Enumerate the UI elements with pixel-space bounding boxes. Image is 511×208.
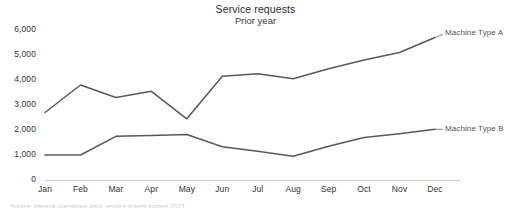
- series-label-machine-type-a: Machine Type A: [445, 28, 503, 38]
- chart-container: Service requests Prior year 6,0005,0004,…: [0, 0, 511, 208]
- x-tick-label-apr: Apr: [131, 184, 171, 194]
- series-a-leader-line: [435, 35, 443, 38]
- y-tick-label: 1,000: [2, 150, 36, 159]
- plot-area: [0, 0, 511, 208]
- y-tick-label: 6,000: [2, 25, 36, 34]
- x-tick-label-aug: Aug: [273, 184, 313, 194]
- x-tick-label-feb: Feb: [60, 184, 100, 194]
- x-tick-label-may: May: [167, 184, 207, 194]
- x-tick-label-sep: Sep: [309, 184, 349, 194]
- y-tick-label: 0: [2, 175, 36, 184]
- y-tick-label: 5,000: [2, 50, 36, 59]
- series-line-machine-type-a: [45, 38, 435, 119]
- x-tick-label-jan: Jan: [25, 184, 65, 194]
- y-tick-label: 3,000: [2, 100, 36, 109]
- x-tick-label-dec: Dec: [415, 184, 455, 194]
- series-label-machine-type-b: Machine Type B: [445, 124, 504, 134]
- footer-caption: Source: internal operations data, servic…: [10, 203, 340, 208]
- x-tick-label-jun: Jun: [202, 184, 242, 194]
- x-tick-label-nov: Nov: [380, 184, 420, 194]
- series-line-machine-type-b: [45, 129, 435, 156]
- x-tick-label-oct: Oct: [344, 184, 384, 194]
- x-tick-label-jul: Jul: [238, 184, 278, 194]
- x-tick-label-mar: Mar: [96, 184, 136, 194]
- y-tick-label: 4,000: [2, 75, 36, 84]
- y-tick-label: 2,000: [2, 125, 36, 134]
